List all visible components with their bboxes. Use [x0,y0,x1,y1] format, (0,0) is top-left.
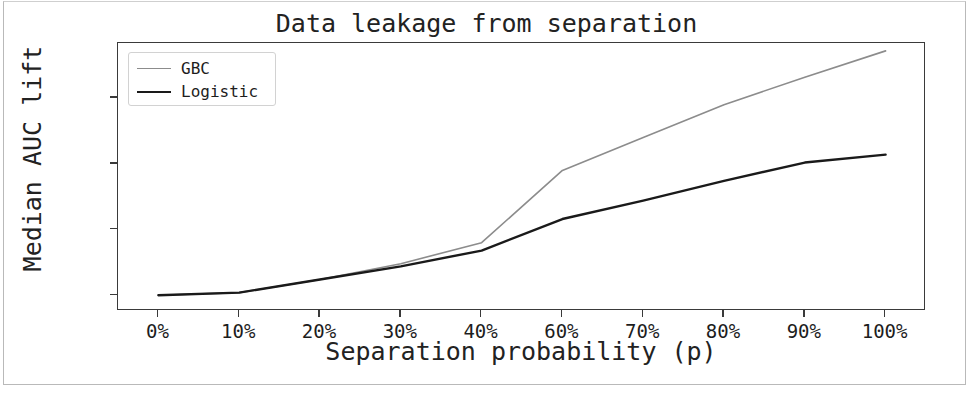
legend-label: Logistic [181,82,258,101]
y-tick-mark [110,96,117,97]
legend-line-swatch [137,68,171,69]
y-tick-mark [110,162,117,163]
y-axis-label: Median AUC lift [18,0,47,359]
chart-title: Data leakage from separation [0,9,973,38]
legend-box: GBCLogistic [128,52,276,106]
x-tick-mark [157,310,158,317]
legend-item-logistic[interactable]: Logistic [137,81,273,103]
chart-figure: Data leakage from separation Median AUC … [0,0,973,398]
x-tick-mark [722,310,723,317]
x-tick-mark [480,310,481,317]
y-tick-mark [110,294,117,295]
legend-line-swatch [137,91,171,93]
x-tick-mark [803,310,804,317]
x-tick-mark [318,310,319,317]
series-line-logistic [158,155,885,296]
x-tick-mark [561,310,562,317]
legend-label: GBC [181,59,210,78]
legend-item-gbc[interactable]: GBC [137,58,273,80]
x-tick-label: 100% [825,320,945,342]
y-tick-mark [110,228,117,229]
x-tick-mark [399,310,400,317]
x-tick-mark [642,310,643,317]
x-tick-mark [884,310,885,317]
x-tick-mark [238,310,239,317]
